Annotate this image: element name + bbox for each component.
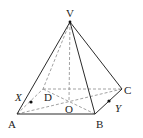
label-X: X bbox=[14, 91, 23, 103]
label-V: V bbox=[66, 7, 74, 19]
point-V bbox=[69, 21, 72, 24]
label-O: O bbox=[65, 103, 73, 115]
label-B: B bbox=[96, 118, 103, 130]
point-X bbox=[29, 100, 32, 103]
edge-VB bbox=[70, 22, 95, 114]
label-A: A bbox=[8, 118, 16, 130]
edge-VC bbox=[70, 22, 122, 89]
edge-VD bbox=[43, 22, 70, 89]
label-Y: Y bbox=[115, 102, 123, 114]
label-C: C bbox=[124, 84, 131, 96]
label-D: D bbox=[44, 91, 52, 103]
point-Y bbox=[107, 99, 110, 102]
pyramid-diagram: V A B C D O X Y bbox=[0, 0, 143, 138]
